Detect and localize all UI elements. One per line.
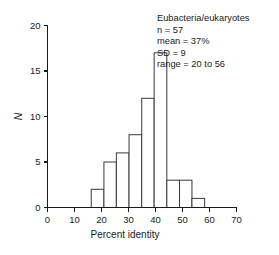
x-tick-label: 0 xyxy=(45,214,50,225)
histogram-bar xyxy=(167,180,180,207)
bar-series xyxy=(91,53,204,208)
x-tick-label: 10 xyxy=(69,214,80,225)
x-tick-label: 60 xyxy=(204,214,215,225)
y-tick-label: 10 xyxy=(30,111,41,122)
x-tick-label: 70 xyxy=(231,214,242,225)
x-tick-label: 30 xyxy=(123,214,134,225)
annotation-line-range: range = 20 to 56 xyxy=(157,59,250,71)
annotation-line-sd: SD = 9 xyxy=(157,48,250,60)
y-tick-label: 0 xyxy=(35,202,40,213)
y-tick-label: 20 xyxy=(30,20,41,31)
y-tick-label: 15 xyxy=(30,65,41,76)
y-tick-label: 5 xyxy=(35,156,40,167)
x-tick-label: 20 xyxy=(96,214,107,225)
y-axis-ticks: 05101520 xyxy=(30,20,48,213)
histogram-bar xyxy=(142,98,154,207)
histogram-bar xyxy=(129,135,142,208)
histogram-bar xyxy=(104,162,116,208)
annotation-line-mean: mean = 37% xyxy=(157,36,250,48)
histogram-bar xyxy=(91,189,104,207)
x-axis-ticks: 010203040506070 xyxy=(45,208,242,225)
histogram-bar xyxy=(116,153,129,208)
x-tick-label: 50 xyxy=(177,214,188,225)
histogram-bar xyxy=(180,180,192,207)
stats-annotation: Eubacteria/eukaryotes n = 57 mean = 37% … xyxy=(157,13,250,71)
y-axis-title: N xyxy=(12,112,24,120)
histogram-bar xyxy=(154,53,167,208)
x-axis-title: Percent identity xyxy=(91,229,160,240)
histogram-figure: 05101520010203040506070Percent identityN… xyxy=(0,0,279,255)
annotation-line-n: n = 57 xyxy=(157,25,250,37)
annotation-line-dataset: Eubacteria/eukaryotes xyxy=(157,13,250,25)
histogram-bar xyxy=(192,198,205,207)
x-tick-label: 40 xyxy=(150,214,161,225)
